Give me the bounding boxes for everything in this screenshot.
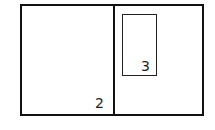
region-label-3: 3 xyxy=(141,59,150,73)
vertical-divider xyxy=(113,6,115,114)
inner-box xyxy=(122,14,157,76)
region-label-2: 2 xyxy=(95,96,104,110)
outer-frame xyxy=(20,4,204,116)
